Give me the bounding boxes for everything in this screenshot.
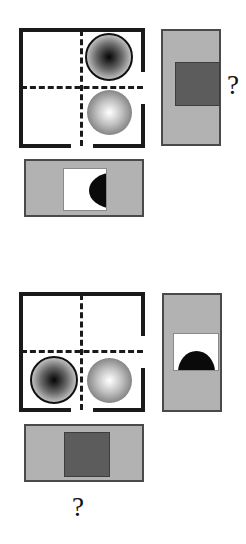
frame-edge-bottom-left xyxy=(19,408,71,412)
frame-edge-bottom-left xyxy=(19,144,71,148)
bracket-frame-top xyxy=(19,28,145,148)
bracket-frame-bottom xyxy=(19,292,145,412)
answer-question-mark-bottom: ? xyxy=(72,494,84,521)
puzzle-canvas: ? xyxy=(0,0,246,544)
sphere-convex xyxy=(87,90,132,135)
dark-square-inset xyxy=(64,432,110,477)
frame-edge-right-lower xyxy=(141,104,145,148)
frame-edge-right-upper xyxy=(141,28,145,72)
dark-square-inset xyxy=(175,62,220,106)
sphere-concave xyxy=(30,356,78,404)
top-analogy-row: ? xyxy=(0,0,246,272)
frame-edge-right-lower xyxy=(141,368,145,412)
frame-edge-bottom-right xyxy=(93,144,145,148)
frame-edge-bottom-right xyxy=(93,408,145,412)
answer-question-mark-top: ? xyxy=(227,72,239,99)
sphere-convex xyxy=(87,358,132,403)
black-half-disc-flat-bottom xyxy=(178,351,215,371)
black-half-disc-flat-right xyxy=(89,173,107,208)
frame-edge-right-upper xyxy=(141,292,145,336)
vertical-gray-panel-top xyxy=(161,29,221,146)
horizontal-gray-panel-bottom xyxy=(24,424,144,482)
dashed-horizontal-axis xyxy=(21,86,143,89)
sphere-concave xyxy=(85,33,133,81)
white-box-with-half-disc xyxy=(63,168,107,211)
bottom-analogy-row: ? xyxy=(0,272,246,544)
white-box-with-half-disc xyxy=(173,333,219,371)
vertical-gray-panel-bottom xyxy=(162,293,222,412)
horizontal-gray-panel-top xyxy=(24,159,144,217)
dashed-horizontal-axis xyxy=(21,350,143,353)
